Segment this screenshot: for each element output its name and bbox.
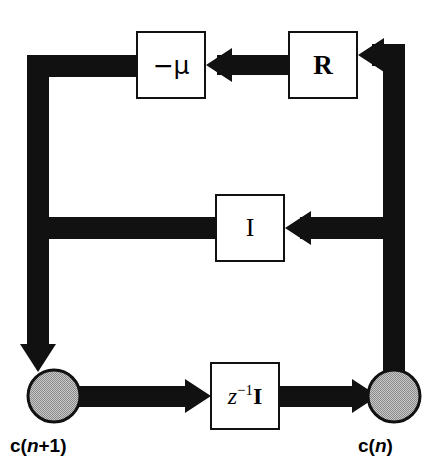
gain-block-minus-mu[interactable]: −μ [136,31,206,99]
identity-block-I[interactable]: I [215,194,285,262]
identity-block-I-label: I [246,215,255,241]
edge-delay-to-node-right-line [280,386,356,407]
node-label-c-now-vector: c [358,435,369,456]
edge-I-to-left-trunk-line [38,217,216,239]
node-label-c-now-index: n [375,435,387,456]
node-right-circle-fill [368,370,420,422]
edge-node-left-to-delay-line [70,386,194,407]
edge-left-vertical-trunk [27,55,49,345]
delay-block-label: z−1I [228,384,263,408]
arrowhead-into-node-left [20,344,56,372]
matrix-block-R[interactable]: R [288,31,358,99]
matrix-block-R-label: R [313,52,333,79]
delay-block-exponent: −1 [237,382,253,398]
arrowhead-into-delay-block [185,379,211,413]
gain-block-minus-mu-label: −μ [153,53,189,78]
edge-right-trunk-to-I-line [300,217,390,239]
block-diagram-canvas: −μ R I z−1I c(n+1) c(n) [0,0,448,469]
delay-block-z-inverse-I[interactable]: z−1I [210,362,280,430]
delay-block-identity-symbol: I [253,383,262,409]
node-label-c-next-vector: c [10,435,21,456]
node-left-circle-fill [28,370,80,422]
arrowhead-into-R-block [358,38,384,72]
node-label-c-now-rest: ) [387,435,393,456]
node-label-c-n: c(n) [358,436,393,455]
delay-block-z-symbol: z [228,383,237,409]
arrowhead-into-I-block [285,211,311,245]
arrowhead-into-minus-mu-block [206,48,232,82]
node-label-c-next-rest: +1) [39,435,67,456]
edge-node-right-vertical-trunk [383,140,405,400]
node-label-c-n-plus-1: c(n+1) [10,436,67,455]
node-label-c-next-index: n [27,435,39,456]
